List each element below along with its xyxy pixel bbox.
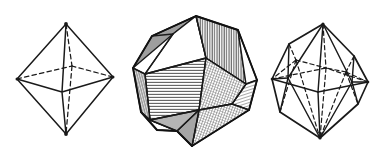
crystal-forms-illustration [0, 0, 384, 156]
crystal-forms-plate: Octahedron Rhombic dodecahedron (shaded)… [0, 0, 384, 156]
